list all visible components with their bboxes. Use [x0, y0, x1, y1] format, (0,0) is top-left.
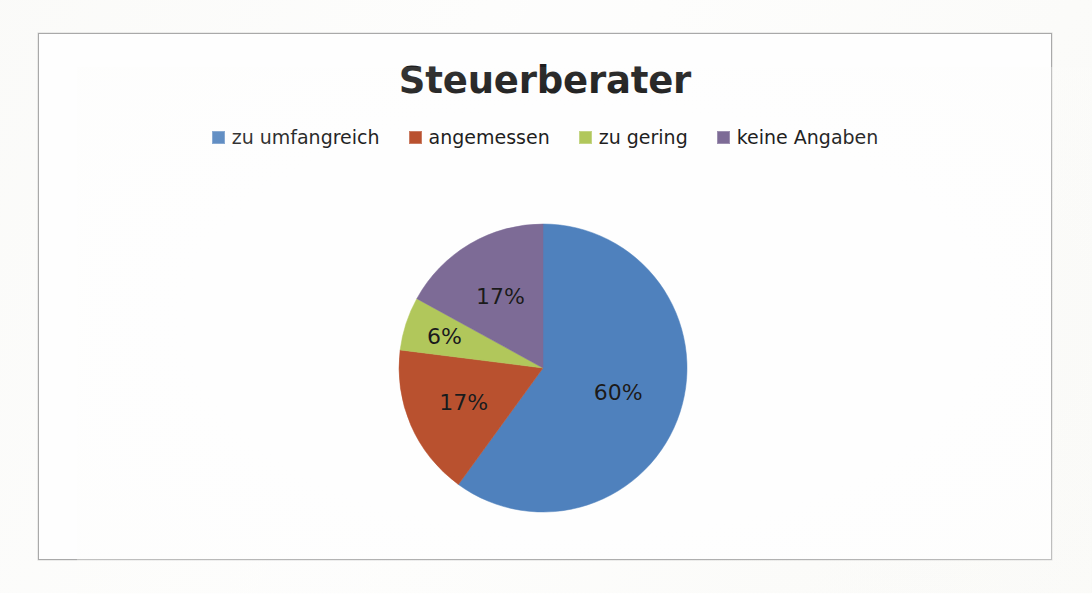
pie-slice-data-label: 17% [439, 390, 488, 415]
legend-label-zu-umfangreich: zu umfangreich [232, 128, 380, 147]
legend-item-keine-angaben[interactable]: keine Angaben [717, 128, 879, 147]
legend-label-keine-angaben: keine Angaben [737, 128, 879, 147]
legend-item-angemessen[interactable]: angemessen [409, 128, 550, 147]
legend-label-zu-gering: zu gering [599, 128, 688, 147]
page-title: Steuerberater [39, 59, 1051, 102]
pie-chart: 60%17%6%17% [398, 223, 688, 513]
legend-swatch-green [579, 131, 592, 144]
legend-swatch-purple [717, 131, 730, 144]
pie-slice-data-label: 60% [594, 380, 643, 405]
legend-item-zu-umfangreich[interactable]: zu umfangreich [212, 128, 380, 147]
legend-item-zu-gering[interactable]: zu gering [579, 128, 688, 147]
legend-label-angemessen: angemessen [429, 128, 550, 147]
pie-chart-svg [398, 223, 688, 513]
legend-swatch-blue [212, 131, 225, 144]
chart-frame: Steuerberater zu umfangreich angemessen … [38, 33, 1052, 560]
legend-swatch-red [409, 131, 422, 144]
pie-slice-data-label: 17% [476, 284, 525, 309]
pie-slice-data-label: 6% [427, 323, 462, 348]
chart-legend: zu umfangreich angemessen zu gering kein… [39, 128, 1051, 147]
